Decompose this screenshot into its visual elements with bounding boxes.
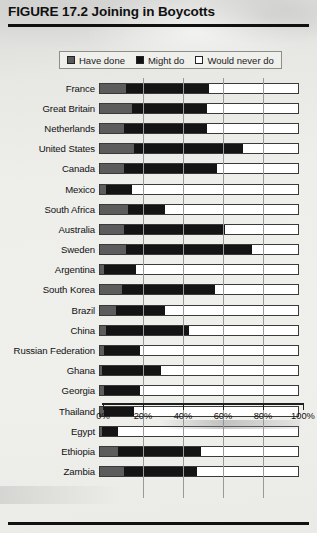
x-axis-tick bbox=[223, 405, 224, 410]
bar-segment-might-do bbox=[124, 225, 225, 234]
bar-row-label-georgia: Georgia bbox=[0, 385, 99, 396]
bar-segment-might-do bbox=[116, 306, 166, 315]
bar-row: Netherlands bbox=[0, 118, 317, 138]
bar-segment-have-done bbox=[100, 447, 118, 456]
x-axis-tick bbox=[103, 405, 104, 410]
x-axis-tick bbox=[303, 405, 304, 410]
bar-track bbox=[99, 103, 299, 114]
bar-segment-would-never-do bbox=[243, 144, 298, 153]
bar-track bbox=[99, 466, 299, 477]
bar-row-label-south-korea: South Korea bbox=[0, 284, 99, 295]
bar-track bbox=[99, 163, 299, 174]
bar-track bbox=[99, 446, 299, 457]
x-axis-tick bbox=[183, 405, 184, 410]
bar-row: Canada bbox=[0, 159, 317, 179]
bar-segment-would-never-do bbox=[165, 205, 298, 214]
bar-segment-might-do bbox=[124, 164, 217, 173]
legend-item-would-never-do: Would never do bbox=[195, 55, 273, 66]
bar-track bbox=[99, 305, 299, 316]
bar-track bbox=[99, 83, 299, 94]
white-square-icon bbox=[195, 56, 203, 64]
bar-segment-might-do bbox=[106, 326, 189, 335]
x-axis-line bbox=[102, 403, 304, 405]
bar-row: Georgia bbox=[0, 381, 317, 401]
bar-row: Mexico bbox=[0, 179, 317, 199]
bar-segment-might-do bbox=[106, 185, 132, 194]
bar-segment-would-never-do bbox=[201, 447, 298, 456]
bar-segment-might-do bbox=[126, 84, 209, 93]
legend-label-would-never-do: Would never do bbox=[207, 55, 273, 66]
bar-row: South Korea bbox=[0, 280, 317, 300]
bar-row: Argentina bbox=[0, 260, 317, 280]
bar-row: Brazil bbox=[0, 300, 317, 320]
bar-row-label-mexico: Mexico bbox=[0, 184, 99, 195]
bar-row: Ghana bbox=[0, 361, 317, 381]
bar-row-label-zambia: Zambia bbox=[0, 466, 99, 477]
bar-row-label-russian-federation: Russian Federation bbox=[0, 345, 99, 356]
bar-track bbox=[99, 244, 299, 255]
bar-row-label-ghana: Ghana bbox=[0, 365, 99, 376]
bar-segment-would-never-do bbox=[165, 306, 298, 315]
bar-track bbox=[99, 264, 299, 275]
legend-label-might-do: Might do bbox=[148, 55, 184, 66]
legend-item-have-done: Have done bbox=[67, 55, 125, 66]
bar-row-label-france: France bbox=[0, 83, 99, 94]
bar-row: Australia bbox=[0, 219, 317, 239]
bar-row-label-china: China bbox=[0, 325, 99, 336]
figure-container: FIGURE 17.2 Joining in Boycotts Have don… bbox=[0, 0, 317, 533]
bar-segment-would-never-do bbox=[197, 467, 298, 476]
bar-row: Russian Federation bbox=[0, 340, 317, 360]
bar-track bbox=[99, 345, 299, 356]
bar-segment-would-never-do bbox=[136, 265, 298, 274]
bar-segment-have-done bbox=[100, 467, 124, 476]
bar-row-label-great-britain: Great Britain bbox=[0, 103, 99, 114]
bar-segment-would-never-do bbox=[140, 346, 298, 355]
bar-row: China bbox=[0, 320, 317, 340]
x-axis-tick-label: 20% bbox=[134, 411, 153, 421]
x-axis: 0%20%40%60%80%100% bbox=[103, 403, 303, 429]
x-axis-tick-label: 40% bbox=[174, 411, 193, 421]
x-axis-tick bbox=[143, 405, 144, 410]
bar-track bbox=[99, 284, 299, 295]
legend-item-might-do: Might do bbox=[136, 55, 184, 66]
bar-row-label-netherlands: Netherlands bbox=[0, 123, 99, 134]
bar-segment-might-do bbox=[134, 144, 243, 153]
black-square-icon bbox=[136, 56, 144, 64]
bar-track bbox=[99, 204, 299, 215]
bar-track bbox=[99, 385, 299, 396]
legend-label-have-done: Have done bbox=[79, 55, 125, 66]
bar-track bbox=[99, 123, 299, 134]
bar-segment-might-do bbox=[122, 285, 215, 294]
bar-segment-might-do bbox=[128, 205, 166, 214]
bar-segment-would-never-do bbox=[207, 124, 298, 133]
bar-row-label-thailand: Thailand bbox=[0, 406, 99, 417]
bar-segment-have-done bbox=[100, 225, 124, 234]
bar-track bbox=[99, 224, 299, 235]
bar-segment-have-done bbox=[100, 205, 128, 214]
bar-segment-have-done bbox=[100, 84, 126, 93]
bar-segment-have-done bbox=[100, 285, 122, 294]
bar-row: Ethiopia bbox=[0, 441, 317, 461]
x-axis-tick bbox=[263, 405, 264, 410]
bar-segment-might-do bbox=[104, 265, 136, 274]
gray-square-icon bbox=[67, 56, 75, 64]
bar-segment-have-done bbox=[100, 144, 134, 153]
bar-track bbox=[99, 184, 299, 195]
bar-segment-might-do bbox=[104, 386, 140, 395]
bar-track bbox=[99, 365, 299, 376]
bar-row-label-brazil: Brazil bbox=[0, 305, 99, 316]
chart-plot-area: FranceGreat BritainNetherlandsUnited Sta… bbox=[0, 78, 317, 498]
title-rule-top bbox=[8, 24, 309, 27]
x-axis-tick-label: 60% bbox=[214, 411, 233, 421]
bar-row: Sweden bbox=[0, 240, 317, 260]
bar-row: Great Britain bbox=[0, 98, 317, 118]
x-axis-tick-label: 0% bbox=[96, 411, 109, 421]
bar-segment-would-never-do bbox=[140, 386, 298, 395]
bar-segment-might-do bbox=[104, 346, 140, 355]
bar-segment-might-do bbox=[132, 104, 207, 113]
bar-track bbox=[99, 325, 299, 336]
bar-row-label-canada: Canada bbox=[0, 163, 99, 174]
bar-segment-would-never-do bbox=[217, 164, 298, 173]
bar-segment-have-done bbox=[100, 104, 132, 113]
bar-segment-would-never-do bbox=[215, 285, 298, 294]
